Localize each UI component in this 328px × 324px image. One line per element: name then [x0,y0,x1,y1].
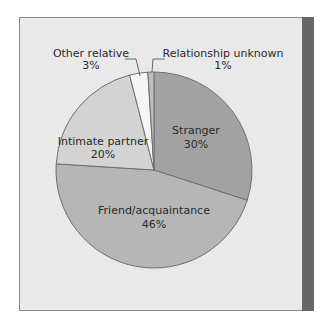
pie-chart: Stranger 30% Friend/acquaintance 46% Int… [0,0,328,324]
slice-label-intimate-partner: Intimate partner [58,135,149,148]
pie-slices [56,72,252,268]
slice-value-other-relative: 3% [82,59,99,72]
slice-label-stranger: Stranger [172,124,220,137]
leader-line-relationship-unknown [152,59,165,72]
slice-label-friend: Friend/acquaintance [98,204,210,217]
slice-value-relationship-unknown: 1% [214,59,231,72]
slice-value-friend: 46% [142,218,166,231]
slice-value-stranger: 30% [184,138,208,151]
slice-value-intimate-partner: 20% [91,148,115,161]
